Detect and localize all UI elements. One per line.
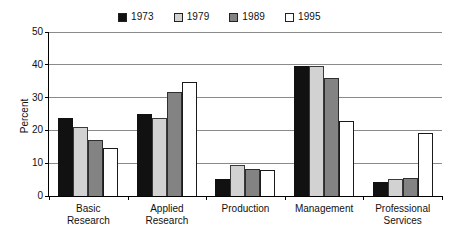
bar-group [363, 32, 442, 196]
y-axis-tick-label: 30 [32, 93, 43, 103]
bar-group-bars [363, 32, 451, 196]
bar-group [128, 32, 207, 196]
x-axis-tick [363, 196, 364, 200]
x-axis-category-line2: Research [145, 215, 188, 227]
plot-inner: 01020304050BasicResearchAppliedResearchP… [49, 32, 442, 196]
legend-item: 1979 [174, 12, 210, 22]
bar [418, 133, 433, 196]
bar [215, 179, 230, 196]
bar-group [206, 32, 285, 196]
bar [88, 140, 103, 196]
legend-swatch-icon [285, 13, 294, 22]
x-axis-category-line1: Professional [375, 203, 430, 214]
bar-group [285, 32, 364, 196]
bar [324, 78, 339, 196]
bar-chart: 1973197919891995 Percent 01020304050Basi… [0, 0, 458, 232]
y-axis-tick-label: 40 [32, 60, 43, 70]
bar-group-bars [285, 32, 373, 196]
legend-label: 1973 [131, 12, 154, 22]
bar [373, 182, 388, 196]
chart-legend: 1973197919891995 [118, 9, 321, 25]
bar [245, 169, 260, 196]
bar-group-bars [206, 32, 294, 196]
x-axis-category-line1: Basic [76, 203, 100, 214]
y-axis-title: Percent [20, 99, 30, 133]
legend-label: 1979 [187, 12, 210, 22]
bar [103, 148, 118, 196]
legend-swatch-icon [174, 13, 183, 22]
x-axis-category-label: AppliedResearch [145, 203, 188, 226]
bar [294, 66, 309, 196]
y-axis-tick-label: 0 [37, 191, 43, 201]
bar [339, 121, 354, 196]
legend-label: 1989 [242, 12, 265, 22]
bar [230, 165, 245, 196]
x-axis-tick [49, 196, 50, 200]
x-axis-category-line2: Services [375, 215, 430, 227]
x-axis-category-line1: Management [295, 203, 353, 214]
bar-group-bars [49, 32, 137, 196]
bar [152, 118, 167, 196]
y-axis-tick-label: 50 [32, 27, 43, 37]
bar-group-bars [128, 32, 216, 196]
x-axis-tick [285, 196, 286, 200]
bar [167, 92, 182, 196]
bar [137, 114, 152, 196]
y-axis-tick-label: 10 [32, 158, 43, 168]
bar [388, 179, 403, 196]
x-axis-tick [206, 196, 207, 200]
x-axis-category-label: Management [295, 203, 353, 215]
legend-item: 1989 [229, 12, 265, 22]
legend-item: 1995 [285, 12, 321, 22]
x-axis-category-line1: Production [222, 203, 270, 214]
bar [58, 118, 73, 196]
legend-item: 1973 [118, 12, 154, 22]
bar-group [49, 32, 128, 196]
bar [73, 127, 88, 196]
x-axis-tick [442, 196, 443, 200]
legend-swatch-icon [229, 13, 238, 22]
legend-swatch-icon [118, 13, 127, 22]
bar [260, 170, 275, 196]
x-axis-category-label: Production [222, 203, 270, 215]
x-axis-category-line1: Applied [150, 203, 183, 214]
x-axis-tick [128, 196, 129, 200]
y-axis-tick-label: 20 [32, 125, 43, 135]
x-axis-category-line2: Research [67, 215, 110, 227]
legend-label: 1995 [298, 12, 321, 22]
plot-area: 01020304050BasicResearchAppliedResearchP… [48, 32, 442, 196]
bar [182, 82, 197, 196]
bar [309, 66, 324, 196]
bar [403, 178, 418, 196]
x-axis-category-label: ProfessionalServices [375, 203, 430, 226]
x-axis-category-label: BasicResearch [67, 203, 110, 226]
